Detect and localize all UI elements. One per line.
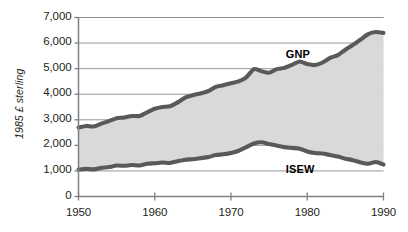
series-label-gnp: GNP <box>286 48 310 60</box>
y-tick-label: 2,000 <box>43 137 71 149</box>
y-tick-label: 4,000 <box>43 86 71 98</box>
series-label-isew: ISEW <box>286 163 315 175</box>
x-tick-label: 1970 <box>201 206 261 218</box>
y-tick-label: 6,000 <box>43 35 71 47</box>
x-tick-label: 1990 <box>354 206 408 218</box>
x-tick-label: 1960 <box>125 206 185 218</box>
y-tick-label: 3,000 <box>43 112 71 124</box>
y-tick-label: 1,000 <box>43 163 71 175</box>
y-tick-label: 7,000 <box>43 10 71 22</box>
x-tick-label: 1980 <box>277 206 337 218</box>
chart-container: 1985 £ sterling 01,0002,0003,0004,0005,0… <box>0 0 408 232</box>
y-axis-title: 1985 £ sterling <box>13 69 25 139</box>
y-tick-label: 0 <box>65 189 71 201</box>
x-tick-label: 1950 <box>49 206 109 218</box>
y-tick-label: 5,000 <box>43 61 71 73</box>
